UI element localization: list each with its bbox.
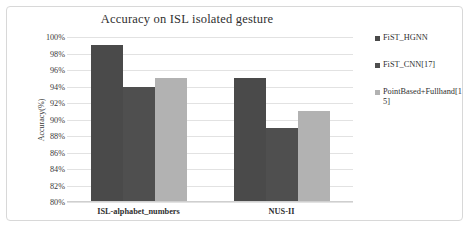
y-axis-tick-label: 88% (50, 132, 65, 141)
y-axis-tick-label: 86% (50, 148, 65, 157)
bar[interactable] (155, 78, 187, 202)
y-axis-tick-label: 92% (50, 99, 65, 108)
chart-legend: FiST_HGNNFiST_CNN[17]PointBased+Fullhand… (375, 33, 463, 124)
bar[interactable] (91, 45, 123, 202)
plot-area (67, 37, 353, 202)
y-axis-tick-label: 98% (50, 49, 65, 58)
legend-item[interactable]: FiST_CNN[17] (375, 60, 463, 70)
legend-label: FiST_CNN[17] (383, 60, 435, 70)
y-axis-tick-label: 80% (50, 198, 65, 207)
y-axis-tick-label: 100% (46, 33, 65, 42)
bar[interactable] (298, 111, 330, 202)
x-axis-tick-label: NUS-II (269, 207, 295, 216)
y-axis-tick-labels: 100%98%96%94%92%90%88%86%84%82%80% (29, 37, 65, 202)
bar[interactable] (266, 128, 298, 202)
legend-item[interactable]: FiST_HGNN (375, 33, 463, 43)
bar-group (67, 37, 210, 202)
y-axis-tick-label: 94% (50, 82, 65, 91)
x-axis-line (67, 201, 353, 202)
legend-swatch-icon (375, 36, 380, 41)
legend-label: PointBased+Fullhand[15] (383, 87, 463, 107)
y-axis-tick-label: 90% (50, 115, 65, 124)
chart-container: Accuracy on ISL isolated gesture Accurac… (6, 6, 463, 221)
bar[interactable] (234, 78, 266, 202)
legend-item[interactable]: PointBased+Fullhand[15] (375, 87, 463, 107)
legend-swatch-icon (375, 90, 380, 95)
gridline (67, 202, 353, 203)
x-axis-tick-label: ISL-alphabet_numbers (97, 207, 180, 216)
bar-group (210, 37, 353, 202)
bar[interactable] (123, 87, 155, 203)
y-axis-tick-label: 84% (50, 165, 65, 174)
x-axis-title: Dataset (67, 220, 353, 221)
legend-label: FiST_HGNN (383, 33, 428, 43)
y-axis-tick-label: 96% (50, 66, 65, 75)
legend-swatch-icon (375, 63, 380, 68)
y-axis-tick-label: 82% (50, 181, 65, 190)
chart-title: Accuracy on ISL isolated gesture (7, 12, 367, 27)
